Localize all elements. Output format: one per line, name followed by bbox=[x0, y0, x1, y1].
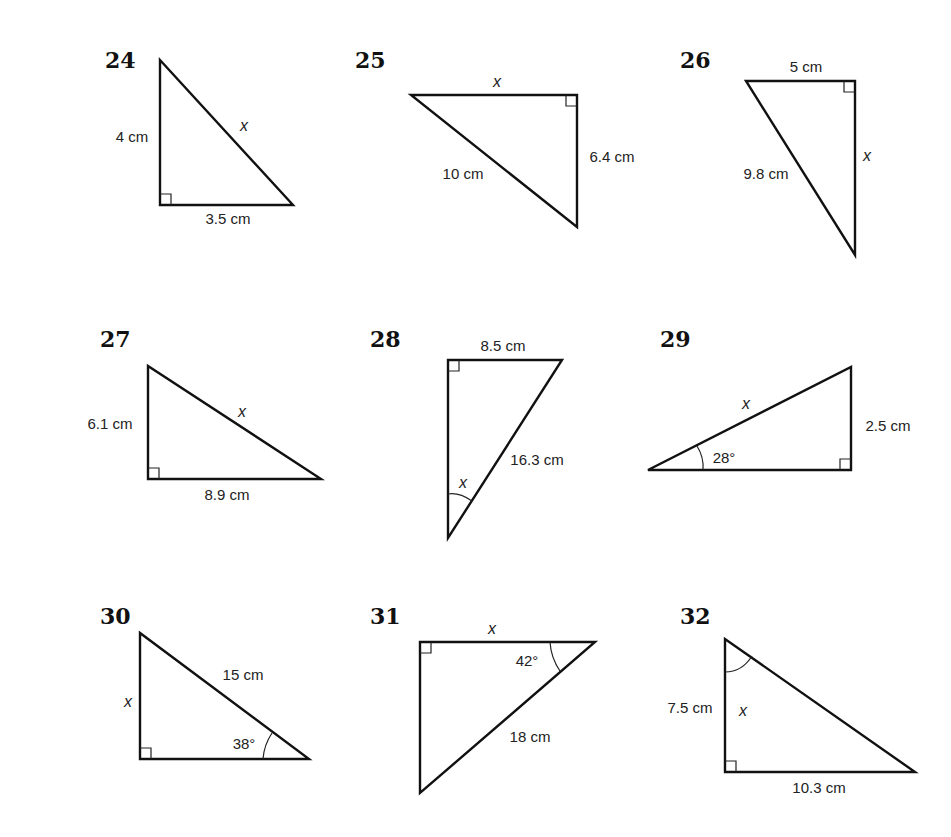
problem-number: 31 bbox=[370, 603, 401, 629]
unknown-label: x bbox=[458, 474, 468, 491]
measure-label: 4 cm bbox=[116, 128, 149, 145]
unknown-label: x bbox=[741, 395, 751, 412]
right-angle-marker bbox=[148, 468, 159, 479]
right-angle-marker bbox=[420, 642, 431, 653]
right-triangle bbox=[140, 633, 309, 759]
measure-label: 7.5 cm bbox=[667, 699, 712, 716]
problem-30: 3015 cmx38° bbox=[100, 603, 309, 759]
angle-arc bbox=[697, 446, 703, 470]
right-triangle bbox=[148, 366, 321, 479]
right-triangle bbox=[648, 367, 851, 470]
measure-label: 16.3 cm bbox=[510, 451, 563, 468]
measure-label: 6.1 cm bbox=[87, 415, 132, 432]
measure-label: 10.3 cm bbox=[792, 779, 845, 796]
right-angle-marker bbox=[448, 360, 459, 371]
problem-29: 29x2.5 cm28° bbox=[648, 326, 911, 470]
angle-arc bbox=[550, 642, 560, 671]
problem-number: 24 bbox=[105, 47, 136, 73]
measure-label: 2.5 cm bbox=[865, 417, 910, 434]
problem-number: 32 bbox=[680, 603, 711, 629]
problem-31: 31x42°18 cm bbox=[370, 603, 595, 793]
measure-label: 10 cm bbox=[443, 165, 484, 182]
right-triangle bbox=[725, 639, 915, 772]
unknown-label: x bbox=[123, 693, 133, 710]
right-angle-marker bbox=[725, 761, 736, 772]
right-triangle bbox=[411, 95, 577, 227]
problem-number: 26 bbox=[680, 47, 711, 73]
problem-32: 32x7.5 cm10.3 cm bbox=[667, 603, 915, 796]
problem-number: 30 bbox=[100, 603, 131, 629]
worksheet-canvas: 244 cmx3.5 cm25x6.4 cm10 cm265 cmx9.8 cm… bbox=[0, 0, 951, 837]
problem-24: 244 cmx3.5 cm bbox=[105, 47, 293, 227]
problem-number: 25 bbox=[355, 47, 386, 73]
problem-number: 29 bbox=[660, 326, 691, 352]
problem-26: 265 cmx9.8 cm bbox=[680, 47, 872, 255]
right-triangle bbox=[160, 60, 293, 205]
measure-label: 18 cm bbox=[510, 728, 551, 745]
problem-number: 28 bbox=[370, 326, 401, 352]
angle-arc bbox=[448, 494, 472, 501]
problem-28: 288.5 cm16.3 cmx bbox=[370, 326, 564, 538]
measure-label: 8.5 cm bbox=[480, 337, 525, 354]
problem-number: 27 bbox=[100, 326, 131, 352]
measure-label: 8.9 cm bbox=[204, 486, 249, 503]
right-triangle bbox=[420, 642, 595, 793]
right-angle-marker bbox=[844, 81, 855, 92]
unknown-label: x bbox=[738, 702, 748, 719]
measure-label: 28° bbox=[713, 449, 736, 466]
unknown-label: x bbox=[237, 403, 247, 420]
measure-label: 5 cm bbox=[790, 58, 823, 75]
problem-25: 25x6.4 cm10 cm bbox=[355, 47, 635, 227]
problem-27: 276.1 cmx8.9 cm bbox=[87, 326, 321, 503]
measure-label: 9.8 cm bbox=[743, 165, 788, 182]
angle-arc bbox=[725, 656, 752, 672]
right-angle-marker bbox=[160, 194, 171, 205]
right-angle-marker bbox=[566, 95, 577, 106]
measure-label: 42° bbox=[516, 652, 539, 669]
right-angle-marker bbox=[140, 748, 151, 759]
measure-label: 15 cm bbox=[223, 666, 264, 683]
measure-label: 6.4 cm bbox=[589, 148, 634, 165]
unknown-label: x bbox=[492, 73, 502, 90]
right-triangle bbox=[448, 360, 562, 538]
unknown-label: x bbox=[487, 620, 497, 637]
measure-label: 38° bbox=[233, 735, 256, 752]
unknown-label: x bbox=[862, 147, 872, 164]
right-angle-marker bbox=[840, 459, 851, 470]
measure-label: 3.5 cm bbox=[205, 210, 250, 227]
unknown-label: x bbox=[239, 117, 249, 134]
angle-arc bbox=[263, 733, 272, 759]
